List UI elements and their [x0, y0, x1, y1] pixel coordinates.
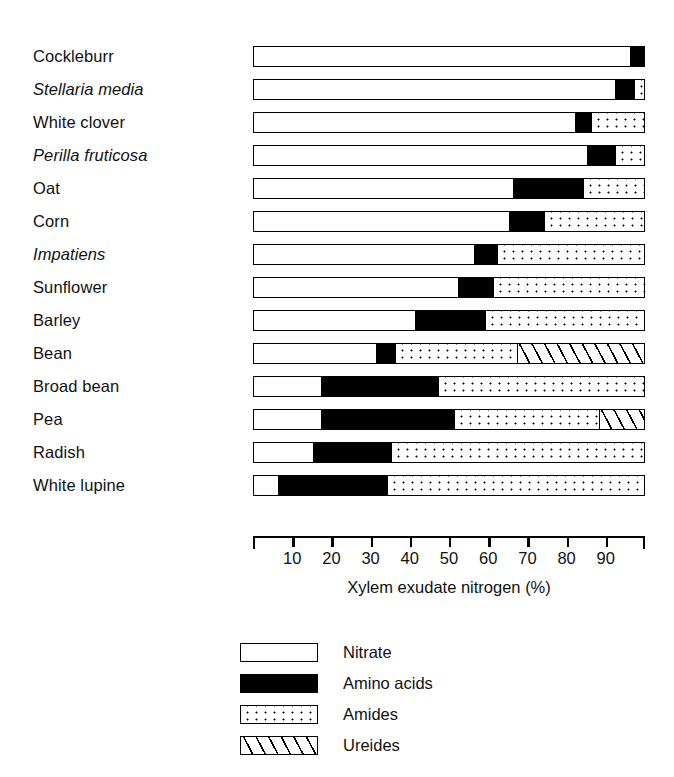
legend-label: Amino acids	[343, 671, 433, 696]
legend-label: Amides	[343, 702, 398, 727]
legend-swatch-amides	[240, 705, 318, 724]
chart-row: Radish	[0, 440, 674, 473]
bar-segment-amides	[438, 377, 645, 396]
stacked-bar	[253, 79, 645, 100]
stacked-bar	[253, 178, 645, 199]
bar-segment-nitrate	[254, 278, 458, 297]
chart-row: Impatiens	[0, 242, 674, 275]
bar-segment-ureides	[517, 344, 645, 363]
category-label: Sunflower	[33, 275, 238, 299]
bar-segment-amino-acids	[630, 47, 645, 66]
bar-segment-amides	[387, 476, 645, 495]
bar-segment-amides	[454, 410, 599, 429]
bar-segment-amides	[615, 146, 645, 165]
bar-segment-nitrate	[254, 476, 278, 495]
legend-swatch-nitrate	[240, 643, 318, 662]
bar-segment-amino-acids	[587, 146, 614, 165]
stacked-bar	[253, 112, 645, 133]
bar-segment-amides	[485, 311, 645, 330]
stacked-bar	[253, 211, 645, 232]
axis-tick-label: 90	[581, 549, 631, 568]
category-label: White lupine	[33, 473, 238, 497]
category-label: Corn	[33, 209, 238, 233]
chart-row: Broad bean	[0, 374, 674, 407]
category-label: Pea	[33, 407, 238, 431]
legend-swatch-amino-acids	[240, 674, 318, 693]
bar-segment-amides	[391, 443, 645, 462]
bar-segment-ureides	[599, 410, 645, 429]
stacked-bar	[253, 277, 645, 298]
bar-segment-amides	[493, 278, 645, 297]
bar-segment-nitrate	[254, 245, 474, 264]
xylem-exudate-nitrogen-chart: CockleburrStellaria mediaWhite cloverPer…	[0, 0, 674, 777]
bar-segment-amides	[395, 344, 517, 363]
bar-segment-amides	[591, 113, 645, 132]
stacked-bar	[253, 475, 645, 496]
category-label: Stellaria media	[33, 77, 238, 101]
bar-segment-nitrate	[254, 212, 509, 231]
x-axis	[253, 536, 645, 538]
stacked-bar	[253, 442, 645, 463]
bar-segment-nitrate	[254, 443, 313, 462]
bar-segment-nitrate	[254, 377, 321, 396]
bar-segment-amides	[634, 80, 645, 99]
bar-segment-nitrate	[254, 344, 376, 363]
axis-tick-end	[643, 536, 645, 549]
category-label: Broad bean	[33, 374, 238, 398]
axis-tick-90	[606, 536, 608, 547]
bar-segment-amino-acids	[458, 278, 493, 297]
chart-row: White clover	[0, 110, 674, 143]
category-label: Impatiens	[33, 242, 238, 266]
bar-segment-amino-acids	[509, 212, 544, 231]
bar-segment-amino-acids	[313, 443, 391, 462]
stacked-bar	[253, 409, 645, 430]
category-label: Perilla fruticosa	[33, 143, 238, 167]
legend-label: Ureides	[343, 733, 400, 758]
category-label: Oat	[33, 176, 238, 200]
axis-tick-30	[371, 536, 373, 547]
chart-row: Oat	[0, 176, 674, 209]
bar-segment-nitrate	[254, 410, 321, 429]
bar-segment-amides	[544, 212, 645, 231]
bar-segment-nitrate	[254, 311, 415, 330]
plot-area: CockleburrStellaria mediaWhite cloverPer…	[0, 44, 674, 506]
legend-label: Nitrate	[343, 640, 392, 665]
axis-tick-start	[253, 536, 255, 549]
bar-segment-amino-acids	[615, 80, 635, 99]
bar-segment-amino-acids	[321, 410, 454, 429]
bar-segment-amino-acids	[575, 113, 591, 132]
stacked-bar	[253, 46, 645, 67]
chart-row: White lupine	[0, 473, 674, 506]
chart-row: Bean	[0, 341, 674, 374]
axis-tick-10	[292, 536, 294, 547]
legend-swatch-ureides	[240, 736, 318, 755]
category-label: Cockleburr	[33, 44, 238, 68]
category-label: Barley	[33, 308, 238, 332]
x-axis-title: Xylem exudate nitrogen (%)	[253, 578, 645, 597]
chart-row: Sunflower	[0, 275, 674, 308]
axis-tick-40	[410, 536, 412, 547]
stacked-bar	[253, 244, 645, 265]
stacked-bar	[253, 310, 645, 331]
bar-segment-nitrate	[254, 113, 575, 132]
bar-segment-amino-acids	[278, 476, 388, 495]
bar-segment-amino-acids	[513, 179, 584, 198]
bar-segment-nitrate	[254, 146, 587, 165]
category-label: Radish	[33, 440, 238, 464]
bar-segment-amino-acids	[474, 245, 498, 264]
bar-segment-amino-acids	[415, 311, 486, 330]
chart-row: Pea	[0, 407, 674, 440]
axis-tick-20	[331, 536, 333, 547]
axis-tick-60	[488, 536, 490, 547]
stacked-bar	[253, 376, 645, 397]
chart-row: Cockleburr	[0, 44, 674, 77]
bar-segment-nitrate	[254, 80, 615, 99]
bar-segment-amino-acids	[321, 377, 439, 396]
category-label: Bean	[33, 341, 238, 365]
axis-tick-70	[527, 536, 529, 547]
bar-segment-nitrate	[254, 47, 630, 66]
axis-tick-50	[449, 536, 451, 547]
stacked-bar	[253, 145, 645, 166]
chart-row: Stellaria media	[0, 77, 674, 110]
bar-segment-amides	[583, 179, 645, 198]
